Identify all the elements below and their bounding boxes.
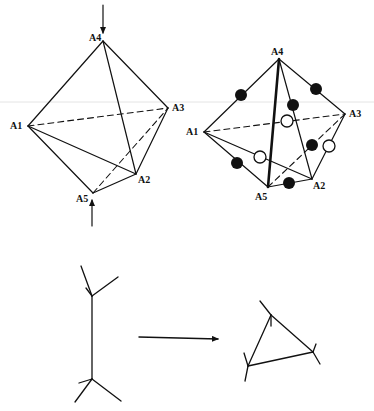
graph-edge [92, 277, 118, 296]
diagram-canvas [0, 0, 374, 411]
edge-a4-a3 [103, 41, 168, 108]
filled-dot-icon [283, 177, 295, 189]
edge-a4-a2 [103, 41, 136, 174]
graph-edge [81, 266, 92, 296]
open-dot-icon [281, 115, 293, 127]
bottom-left-graph [75, 266, 121, 402]
left-label-a1: A1 [10, 121, 22, 131]
edge-a2-a3 [136, 108, 168, 174]
transition-arrow [139, 337, 218, 339]
open-dot-icon [254, 151, 266, 163]
right-label-a4: A4 [271, 47, 283, 57]
edge-a4-a1 [28, 41, 103, 126]
edge-a1-a2 [28, 126, 136, 174]
triangle-edge [313, 352, 320, 364]
right-label-a2: A2 [313, 181, 325, 191]
right-label-a3: A3 [349, 109, 361, 119]
triangle-edge [244, 353, 248, 366]
edge-a5-a2 [93, 174, 136, 193]
triangle-edge [245, 366, 248, 381]
edge-a1-a5 [28, 126, 93, 193]
triangle-edge [313, 344, 316, 352]
filled-dot-icon [306, 139, 318, 151]
filled-dot-icon [235, 89, 247, 101]
triangle-edge [248, 352, 313, 366]
triangle-edge [260, 301, 271, 315]
left-label-a4: A4 [89, 33, 101, 43]
filled-dot-icon [231, 157, 243, 169]
triangle-edge [248, 315, 271, 366]
right-label-a5: A5 [255, 192, 267, 202]
graph-edge [75, 379, 92, 402]
left-label-a2: A2 [138, 175, 150, 185]
hidden-edge-a1-a3 [28, 108, 168, 126]
right-arrow-icon [139, 337, 218, 339]
triangle-edge [271, 315, 313, 352]
right-label-a1: A1 [186, 127, 198, 137]
bottom-right-triangle-graph [244, 301, 320, 381]
open-dot-icon [323, 140, 335, 152]
left-label-a5: A5 [76, 194, 88, 204]
filled-dot-icon [310, 83, 322, 95]
filled-dot-icon [287, 99, 299, 111]
right-octahedron [204, 59, 345, 189]
left-label-a3: A3 [172, 103, 184, 113]
graph-edge [92, 379, 121, 401]
